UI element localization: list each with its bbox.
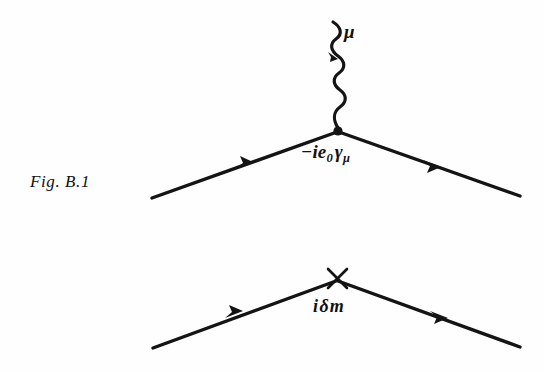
qed-vertex-diagram	[152, 22, 520, 198]
counterterm-symbol-3: m	[329, 296, 344, 316]
counterterm-symbol-2: δ	[318, 296, 329, 316]
fermion-out-arrowhead-icon-top	[423, 160, 441, 173]
figure-page: Fig. B.1 μ −ie0γμ iδm	[0, 0, 544, 372]
vertex-factor-sign: −	[301, 141, 313, 162]
fermion-in-line-bottom	[153, 281, 336, 348]
vertex-dot-icon	[333, 126, 342, 135]
fermion-out-line-bottom	[338, 281, 520, 347]
qed-vertex-factor-label: −ie0γμ	[301, 142, 350, 165]
fermion-out-arrowhead-icon-bottom	[430, 311, 448, 324]
mass-counterterm-label: iδm	[313, 297, 344, 315]
vertex-factor-sub-2: μ	[343, 151, 350, 165]
figure-caption: Fig. B.1	[30, 172, 90, 192]
vertex-factor-base-2: γ	[333, 141, 343, 162]
cross-mark-icon	[328, 269, 347, 288]
photon-index-label: μ	[344, 22, 355, 41]
vertex-factor-sub-1: 0	[326, 151, 333, 165]
vertex-factor-base-1: ie	[313, 141, 327, 162]
